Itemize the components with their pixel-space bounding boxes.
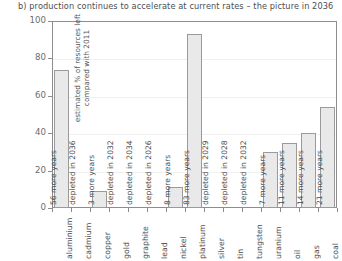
x-axis-label: platinum bbox=[198, 224, 207, 259]
bar-annotation: 21 more years bbox=[315, 150, 324, 205]
x-axis-label: oil bbox=[293, 250, 302, 259]
x-axis-label: cadmium bbox=[84, 223, 93, 259]
x-axis-labels: aluminiumcadmiumcoppergoldgraphiteleadni… bbox=[52, 212, 337, 261]
bar-annotation: 56 more years bbox=[49, 150, 58, 205]
y-axis-tick-label: 80 bbox=[12, 52, 46, 62]
bar-annotation: 14 more years bbox=[296, 150, 305, 205]
x-axis-label: gas bbox=[312, 245, 321, 259]
x-axis-label: aluminium bbox=[65, 218, 74, 259]
y-axis-tick-label: 40 bbox=[12, 127, 46, 137]
x-axis-label: coal bbox=[331, 243, 340, 259]
y-axis-tick-label: 20 bbox=[12, 165, 46, 175]
bar-annotation: 3 more years bbox=[87, 155, 96, 205]
bar-annotation: depleted in 2026 bbox=[144, 140, 153, 205]
x-axis-label: nickel bbox=[179, 236, 188, 259]
chart-title: b) production continues to accelerate at… bbox=[18, 1, 340, 11]
x-axis-label: uranium bbox=[274, 226, 283, 259]
bar-annotation: depleted in 2036 bbox=[68, 140, 77, 205]
x-axis-label: tin bbox=[236, 249, 245, 259]
bar-annotation: depleted in 2029 bbox=[201, 140, 210, 205]
x-axis-label: copper bbox=[103, 232, 112, 259]
x-axis-label: silver bbox=[217, 238, 226, 259]
x-axis-label: tungsten bbox=[255, 224, 264, 259]
bar-column[interactable]: 21 more years bbox=[318, 21, 337, 208]
bar-annotation: 83 more years bbox=[182, 150, 191, 205]
x-axis-tick-mark bbox=[337, 208, 338, 212]
x-axis-label: gold bbox=[122, 242, 131, 259]
bar-annotation: 8 more years bbox=[163, 155, 172, 205]
bar-annotation: depleted in 2028 bbox=[220, 140, 229, 205]
bar-annotation: depleted in 2032 bbox=[239, 140, 248, 205]
y-axis-tick-label: 0 bbox=[12, 202, 46, 212]
bar-annotation: 7 more years bbox=[258, 155, 267, 205]
y-axis-tick-label: 100 bbox=[12, 15, 46, 25]
x-axis-label: graphite bbox=[141, 226, 150, 259]
bar-annotation: depleted in 2034 bbox=[125, 140, 134, 205]
bar-annotation: 11 more years bbox=[277, 150, 286, 205]
chart-container: b) production continues to accelerate at… bbox=[0, 0, 342, 261]
y-axis-tick-label: 60 bbox=[12, 90, 46, 100]
bars-layer: 56 more yearsdepleted in 20363 more year… bbox=[52, 21, 337, 208]
x-axis-label: lead bbox=[160, 242, 169, 259]
bar-annotation: depleted in 2032 bbox=[106, 140, 115, 205]
